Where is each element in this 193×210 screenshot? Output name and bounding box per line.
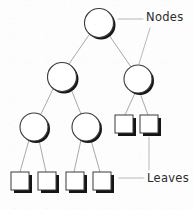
edge-right-node-leaf2	[140, 93, 148, 115]
tree-node-right[interactable]	[124, 65, 154, 95]
edge-ll-leaf3	[20, 140, 29, 172]
leaves-annotation-label: Leaves	[147, 173, 189, 185]
nodes-annotation-label: Nodes	[146, 12, 184, 24]
leaf-node[interactable]	[11, 172, 32, 193]
leaf-node[interactable]	[140, 115, 161, 136]
annotation-leader-lines	[118, 19, 150, 178]
leaf-node[interactable]	[66, 172, 87, 193]
edge-ll-leaf4	[39, 140, 46, 172]
tree-edges	[20, 35, 148, 172]
edge-lr-leaf6	[91, 140, 100, 172]
edge-right-node-leaf1	[125, 93, 135, 115]
edge-lr-leaf5	[74, 140, 81, 172]
tree-node-left-right[interactable]	[72, 113, 102, 143]
leaf-node[interactable]	[38, 172, 59, 193]
edge-left-node-to-lr	[71, 89, 81, 114]
leaf-node[interactable]	[93, 172, 114, 193]
leader-line-nodes-to-right	[139, 28, 150, 64]
tree-diagram: Nodes Leaves	[0, 0, 193, 210]
edge-left-node-to-ll	[41, 89, 53, 114]
tree-node-left-left[interactable]	[20, 113, 50, 143]
leaf-node[interactable]	[115, 115, 136, 136]
tree-node-left[interactable]	[48, 63, 79, 94]
edge-root-right-node	[109, 35, 131, 67]
edge-root-left-node	[69, 35, 89, 64]
